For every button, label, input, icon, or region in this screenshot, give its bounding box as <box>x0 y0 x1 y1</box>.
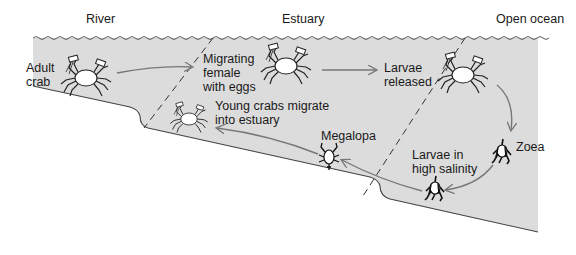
stage-label-megalopa: Megalopa <box>321 129 376 143</box>
zone-label-open-ocean: Open ocean <box>496 12 564 26</box>
stage-label-larvae-high-salinity: Larvae in high salinity <box>412 148 477 176</box>
stage-label-migrating-female: Migrating female with eggs <box>203 52 256 94</box>
blue-crab-life-cycle-diagram <box>0 0 576 255</box>
stage-label-adult-crab: Adult crab <box>26 61 55 89</box>
stage-label-young-crabs: Young crabs migrate into estuary <box>215 99 329 127</box>
stage-label-larvae-released: Larvae released <box>384 61 432 89</box>
zone-label-river: River <box>86 12 115 26</box>
stage-label-zoea: Zoea <box>516 140 545 154</box>
zone-label-estuary: Estuary <box>282 12 324 26</box>
